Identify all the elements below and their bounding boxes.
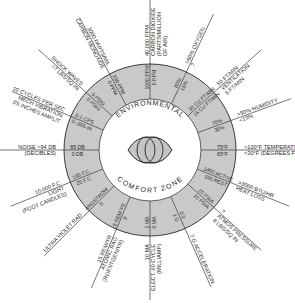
outer-label-carbon-dioxide-3: OF AIR) xyxy=(162,36,168,56)
outer-label-oxygen-1: ? xyxy=(189,62,196,67)
outer-label-temperature-0: >100°F TEMPERATURE xyxy=(244,144,295,150)
ring-value-temperature-0: 75°F xyxy=(217,144,228,150)
outer-label-ultra-violet-0: ULTRA VIOLET RAD xyxy=(42,212,83,253)
outer-label-elect-60-cycle-1: ELECT. 60 CYCLE xyxy=(150,244,156,291)
outer-label-temperature-1: <30°F (DEGREES F) xyxy=(244,150,295,156)
environmental-comfort-zone-diagram: 85 DB0 DB0-1 CPS0-.005 IN5 PSIG0 PSIG100… xyxy=(0,0,295,303)
outer-label-noise-0: NOISE >94 DB xyxy=(18,144,56,150)
ring-value-noise-1: 0 DB xyxy=(72,151,84,157)
outer-label-elect-60-cycle-2: (MILLIAMP) xyxy=(156,244,162,274)
outer-label-light-2: (FOOT CANDLES) xyxy=(21,191,67,214)
outer-label-atmos-pressure-1: ATMOS PRESSURE xyxy=(216,213,259,252)
outer-label-carbon-dioxide-1: CARBON DIOXIDE xyxy=(150,7,156,56)
ring-value-carbon-dioxide-1: 0 PPM xyxy=(151,70,157,86)
ring-value-temperature-1: 65°F xyxy=(217,151,228,157)
outer-label-carbon-dioxide-0: 40,000 PPM xyxy=(144,25,150,56)
outer-label-acceleration-0: 7 G ACCELERATION xyxy=(189,233,216,284)
outer-label-noise-1: (DECIBLES) xyxy=(25,150,57,156)
ring-value-elect-60-cycle-1: 0 MA xyxy=(151,216,157,229)
ring-value-carbon-dioxide-0: 1000 PPM xyxy=(144,65,150,89)
outer-label-carbon-dioxide-2: (PARTS/MILLION xyxy=(156,12,162,56)
outer-label-oxygen-0: >60% OXYGEN xyxy=(184,26,206,65)
outer-label-elect-60-cycle-0: 10 MA xyxy=(144,244,150,260)
ring-value-elect-60-cycle-0: 1 MA xyxy=(144,216,150,229)
outer-label-humidity-0: >90% HUMIDITY xyxy=(236,97,279,117)
ring-value-noise-0: 85 DB xyxy=(70,144,85,150)
